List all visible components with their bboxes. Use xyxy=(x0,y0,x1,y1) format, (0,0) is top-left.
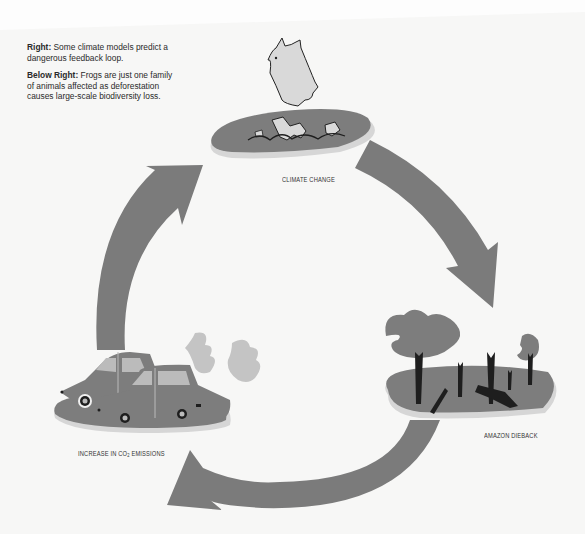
arrow-emissions-to-climate xyxy=(96,165,203,350)
polar-bear-icon xyxy=(268,38,318,106)
arrow-dieback-to-emissions xyxy=(167,420,440,510)
arrow-climate-to-dieback xyxy=(355,140,498,308)
node-label-amazon-dieback: AMAZON DIEBACK xyxy=(484,432,538,439)
co2-emissions-illustration xyxy=(54,333,260,434)
exhaust-smoke-icon xyxy=(185,333,260,383)
node-label-co2-emissions: INCREASE IN CO2 EMISSIONS xyxy=(78,450,165,458)
amazon-dieback-illustration xyxy=(385,310,556,419)
node-label-climate-change: CLIMATE CHANGE xyxy=(282,176,335,183)
climate-change-illustration xyxy=(211,38,375,158)
